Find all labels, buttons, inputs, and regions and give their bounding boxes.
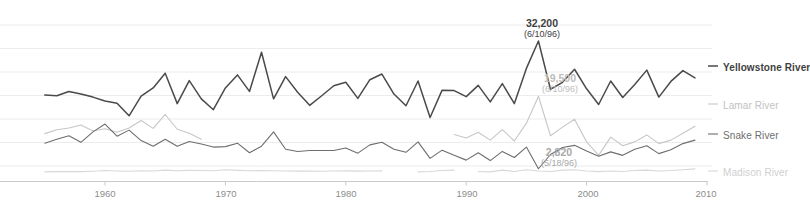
annotation-snake-low: 2,820 (5/18/96) xyxy=(541,147,577,169)
annotation-lamar-peak: 19,500 (6/10/96) xyxy=(542,73,578,95)
annotation-lamar-date: (6/10/96) xyxy=(542,84,578,95)
x-tick-label-1980: 1980 xyxy=(335,188,356,199)
x-tick-label-2000: 2000 xyxy=(577,188,598,199)
annotation-snake-value: 2,820 xyxy=(541,147,577,158)
x-tick-label-1970: 1970 xyxy=(215,188,236,199)
annotation-lamar-value: 19,500 xyxy=(542,73,578,84)
series-line-madison-river-2 xyxy=(478,169,695,172)
x-tick-label-2010: 2010 xyxy=(695,188,716,199)
x-tick-label-1960: 1960 xyxy=(94,188,115,199)
annotation-yellowstone-peak: 32,200 (6/10/96) xyxy=(524,18,560,40)
series-label-snake-river: Snake River xyxy=(723,130,779,141)
series-line-madison-river-1 xyxy=(418,170,454,172)
x-tick-label-1990: 1990 xyxy=(456,188,477,199)
series-label-yellowstone-river: Yellowstone River xyxy=(723,62,810,73)
series-label-madison-river: Madison River xyxy=(723,167,788,178)
x-axis-ticks xyxy=(105,182,707,186)
series-label-lamar-river: Lamar River xyxy=(723,100,779,111)
series-lines xyxy=(45,41,695,172)
series-line-snake-river xyxy=(45,124,695,169)
series-line-yellowstone-river xyxy=(45,41,695,118)
annotation-snake-date: (5/18/96) xyxy=(541,158,577,169)
series-line-madison-river-0 xyxy=(45,170,382,172)
annotation-yellowstone-value: 32,200 xyxy=(524,18,560,29)
annotation-yellowstone-date: (6/10/96) xyxy=(524,29,560,40)
